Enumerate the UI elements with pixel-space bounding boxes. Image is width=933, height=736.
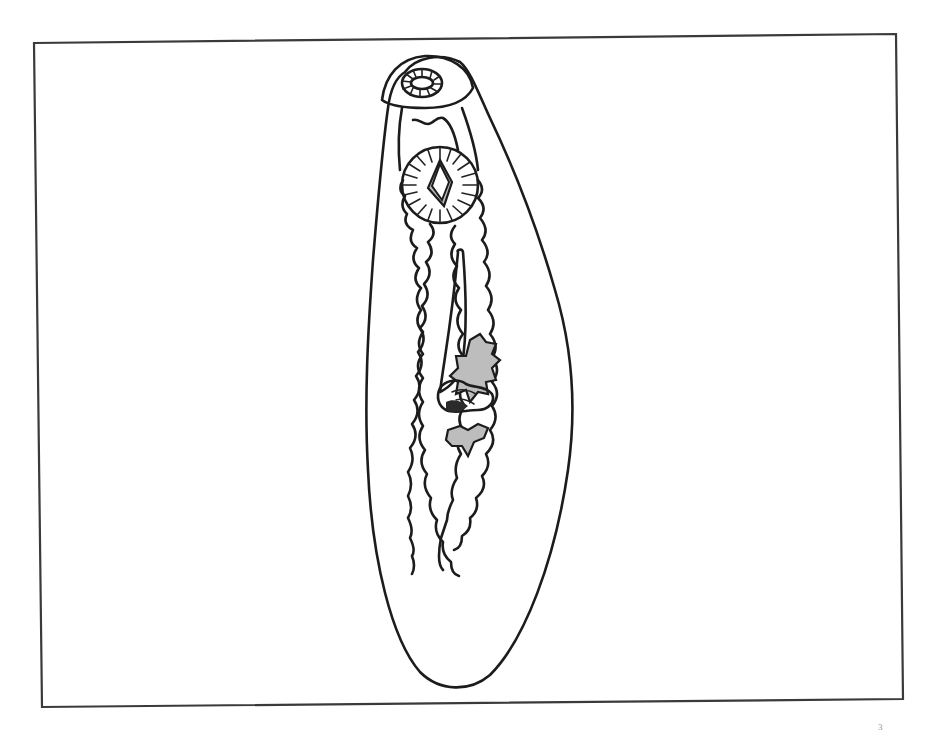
oral-sucker (402, 69, 442, 97)
left-intestinal-cecum (400, 180, 459, 576)
fluke-diagram (0, 0, 933, 736)
ventral-sucker (402, 147, 478, 223)
genital-complex (438, 334, 500, 456)
caption-fragment: 3 (878, 722, 883, 732)
